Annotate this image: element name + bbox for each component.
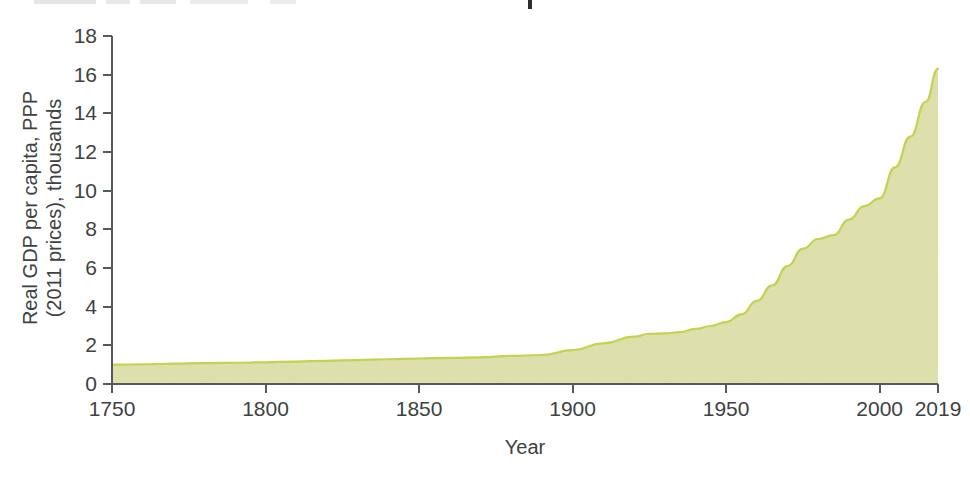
paper-grain-texture [0,0,970,479]
x-tick-label-1800: 1800 [242,397,289,421]
x-tick-label-2019: 2019 [915,397,962,421]
plot-canvas [0,0,970,479]
y-axis-title: Real GDP per capita, PPP (2011 prices), … [18,24,67,392]
y-axis-title-line-1: Real GDP per capita, PPP [19,91,41,325]
x-tick-label-1750: 1750 [89,397,136,421]
gdp-per-capita-area-chart: 024681012141618 175018001850190019502000… [0,0,970,479]
x-axis-title: Year [505,436,545,459]
x-tick-label-1950: 1950 [703,397,750,421]
y-axis-title-line-2: (2011 prices), thousands [42,24,66,392]
x-axis-ticks [112,384,938,393]
x-tick-label-1900: 1900 [549,397,596,421]
y-axis-ticks [103,36,112,384]
x-tick-label-1850: 1850 [396,397,443,421]
x-tick-label-2000: 2000 [856,397,903,421]
